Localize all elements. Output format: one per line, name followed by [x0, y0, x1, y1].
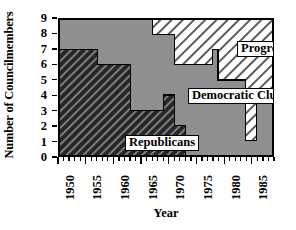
y-tick-label: 6 — [27, 59, 47, 69]
x-tick-label: 1960 — [119, 175, 132, 200]
x-tick-label: 1980 — [230, 175, 243, 200]
x-tick-minor — [102, 157, 103, 161]
x-tick-minor — [163, 157, 164, 161]
x-tick-label: 1970 — [174, 175, 187, 200]
y-tick — [52, 64, 57, 65]
x-tick-minor — [218, 157, 219, 161]
y-tick — [52, 33, 57, 34]
y-tick — [52, 95, 57, 96]
x-tick-minor — [179, 157, 180, 161]
x-axis-title: Year — [58, 206, 274, 221]
x-tick-label: 1965 — [147, 175, 160, 200]
x-tick-minor — [68, 157, 69, 161]
x-tick-minor — [91, 157, 92, 161]
y-tick — [52, 79, 57, 80]
y-tick-label: 7 — [27, 44, 47, 54]
x-tick-minor — [240, 157, 241, 161]
x-tick-minor — [268, 157, 269, 161]
series-label-progressives: Progressives/BCA — [237, 41, 274, 57]
x-tick-minor — [80, 157, 81, 161]
series-label-republicans: Republicans — [125, 135, 199, 151]
x-tick-major — [140, 157, 141, 164]
x-tick-major — [168, 157, 169, 164]
x-tick-minor — [174, 157, 175, 161]
x-tick-minor — [201, 157, 202, 161]
x-tick-minor — [185, 157, 186, 161]
x-tick-minor — [152, 157, 153, 161]
y-tick-label: 3 — [27, 106, 47, 116]
y-tick — [52, 141, 57, 142]
x-tick-label: 1985 — [257, 175, 270, 200]
x-tick-minor — [273, 157, 274, 161]
y-tick — [52, 48, 57, 49]
x-tick-label: 1975 — [202, 175, 215, 200]
x-tick-major — [251, 157, 252, 164]
y-tick — [52, 125, 57, 126]
x-tick-minor — [246, 157, 247, 161]
x-tick-minor — [157, 157, 158, 161]
x-tick-minor — [74, 157, 75, 161]
x-tick-label: 1955 — [91, 175, 104, 200]
y-tick-label: 9 — [27, 13, 47, 23]
x-tick-minor — [212, 157, 213, 161]
x-tick-minor — [257, 157, 258, 161]
y-tick — [52, 110, 57, 111]
x-tick-major — [113, 157, 114, 164]
x-tick-minor — [135, 157, 136, 161]
y-tick — [52, 17, 57, 18]
x-tick-minor — [96, 157, 97, 161]
y-tick-label: 1 — [27, 137, 47, 147]
y-tick-label: 4 — [27, 90, 47, 100]
series-label-democratic-club: Democratic Club — [188, 88, 274, 104]
x-tick-minor — [235, 157, 236, 161]
chart-figure: Number of Councilmembers 0123456789 Repu… — [0, 0, 296, 230]
y-axis-title: Number of Councilmembers — [0, 0, 18, 170]
x-tick-minor — [229, 157, 230, 161]
plot-area: Republicans Democratic Club Progressives… — [58, 18, 274, 157]
x-tick-label: 1950 — [64, 175, 77, 200]
x-tick-minor — [129, 157, 130, 161]
x-tick-minor — [146, 157, 147, 161]
x-tick-minor — [190, 157, 191, 161]
x-tick-minor — [107, 157, 108, 161]
x-tick-major — [57, 157, 58, 164]
y-tick-label: 0 — [27, 152, 47, 162]
x-tick-minor — [124, 157, 125, 161]
x-tick-major — [196, 157, 197, 164]
x-tick-minor — [207, 157, 208, 161]
x-tick-minor — [63, 157, 64, 161]
y-tick-label: 8 — [27, 28, 47, 38]
x-tick-major — [224, 157, 225, 164]
x-tick-minor — [262, 157, 263, 161]
x-tick-minor — [118, 157, 119, 161]
y-tick-label: 2 — [27, 121, 47, 131]
y-tick-label: 5 — [27, 75, 47, 85]
y-tick — [52, 156, 57, 157]
x-tick-major — [85, 157, 86, 164]
